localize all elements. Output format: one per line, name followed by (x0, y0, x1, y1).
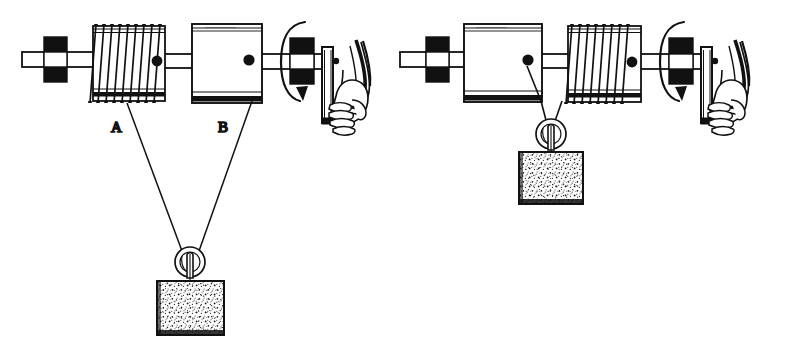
smooth-drum-left (192, 24, 262, 103)
bearing-block-right (290, 38, 314, 84)
coiled-drum-left (89, 24, 165, 103)
cord-anchor-knob-a (152, 56, 163, 67)
movable-pulley-left (175, 247, 205, 280)
cord-left-a (127, 103, 182, 251)
right-apparatus (400, 22, 749, 204)
smooth-drum-right (464, 24, 542, 102)
bearing-block-right-left (426, 37, 449, 82)
label-b: B (218, 119, 228, 135)
movable-pulley-right (536, 119, 566, 152)
hand-icon-right (708, 40, 749, 135)
weight-block-right (519, 152, 583, 204)
figure-canvas: A B (0, 0, 792, 341)
cord-anchor-knob-right-2 (627, 57, 638, 68)
coiled-drum-right (565, 24, 641, 104)
cord-anchor-knob-b (243, 54, 254, 65)
hand-icon (329, 40, 370, 135)
bearing-block-left (44, 37, 67, 82)
weight-block-left (157, 281, 224, 335)
physics-figure: A B (0, 0, 792, 341)
bearing-block-right-right (669, 38, 693, 84)
cord-anchor-knob-right (522, 54, 533, 65)
left-apparatus: A B (22, 22, 370, 335)
label-a: A (111, 119, 122, 135)
